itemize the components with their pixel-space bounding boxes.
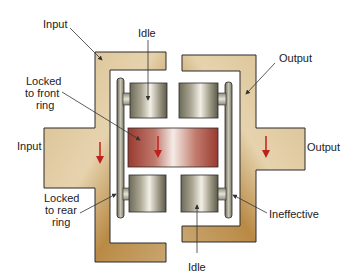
- center-roller: [128, 128, 218, 167]
- label-output-top: Output: [279, 52, 312, 64]
- label-locked-front-3: ring: [36, 99, 54, 111]
- label-locked-rear-1: Locked: [44, 192, 79, 204]
- leader-input-top: [70, 28, 102, 60]
- roller-clutch-diagram: Input Idle Output Locked to front ring I…: [0, 0, 354, 280]
- label-locked-rear-2: to rear: [45, 204, 77, 216]
- label-locked-front-2: to front: [25, 87, 59, 99]
- label-locked-front-1: Locked: [26, 75, 61, 87]
- top-left-roller: [130, 83, 167, 118]
- bottom-left-roller: [129, 175, 166, 212]
- label-ineffective: Ineffective: [269, 208, 319, 220]
- label-input-top: Input: [43, 18, 67, 30]
- label-idle-bottom: Idle: [188, 261, 206, 273]
- label-idle-top: Idle: [138, 27, 156, 39]
- top-right-roller: [179, 83, 218, 118]
- bottom-right-roller: [181, 175, 218, 212]
- label-input-left: Input: [17, 140, 41, 152]
- label-output-right: Output: [307, 141, 340, 153]
- label-locked-rear-3: ring: [52, 216, 70, 228]
